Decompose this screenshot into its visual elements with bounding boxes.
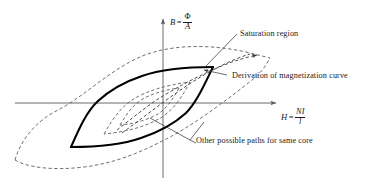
hysteresis-diagram [0, 0, 385, 185]
outer-possible-path-loop [15, 47, 270, 169]
y-axis-fraction: Φ A [183, 13, 192, 32]
annotation-other-possible-paths: Other possible paths for same core [196, 136, 313, 145]
inner-loop-descending-branch [120, 88, 179, 125]
inner-loop-ascending-branch [120, 88, 179, 125]
mid-loop-ascending-branch [104, 82, 190, 134]
magnetization-curve-locus [117, 55, 257, 130]
derivation-of-magnetization-curve [117, 54, 257, 133]
x-axis-fraction: NI l [295, 108, 305, 127]
major-hysteresis-loop [71, 67, 213, 147]
axis-group [15, 19, 276, 178]
y-axis-denominator: A [184, 23, 191, 32]
inner-possible-path-loop [120, 88, 179, 125]
x-axis-numerator: NI [295, 108, 305, 117]
y-axis-label: B = Φ A [170, 13, 192, 32]
x-axis-label: H = NI l [281, 108, 305, 127]
annotation-saturation-region: Saturation region [240, 29, 298, 38]
mid-loop-descending-branch [104, 82, 190, 134]
y-axis-numerator: Φ [184, 13, 192, 22]
annotation-derivation-of-magnetization-curve: Derivation of magnetization curve [232, 71, 348, 80]
leader-other-paths-upper [150, 118, 190, 140]
x-axis-variable: H [281, 112, 289, 122]
y-axis-variable: B [170, 17, 177, 27]
mid-possible-path-loop [104, 82, 190, 134]
x-axis-denominator: l [298, 118, 302, 127]
